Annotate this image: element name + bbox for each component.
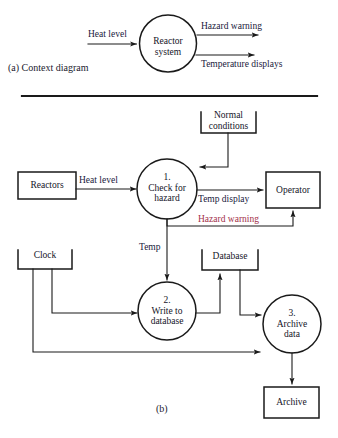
arrow-normal-conditions: [200, 133, 228, 167]
check-for-hazard-number: 1.: [137, 172, 197, 183]
check-for-hazard-label: 1. Check for hazard: [137, 172, 197, 204]
label-hazard-warning-context: Hazard warning: [201, 21, 262, 32]
archive-data-line2: data: [262, 329, 322, 340]
label-heat-level-context: Heat level: [88, 29, 127, 40]
normal-conditions-label: Normal conditions: [201, 110, 256, 131]
label-heat-level: Heat level: [79, 175, 118, 186]
database-label: Database: [202, 251, 258, 262]
reactor-system-line2: system: [140, 47, 196, 58]
label-temperature-displays-context: Temperature displays: [201, 59, 282, 70]
check-for-hazard-line2: hazard: [137, 193, 197, 204]
reactors-label: Reactors: [18, 180, 76, 191]
label-temp-display: Temp display: [198, 194, 249, 205]
write-to-database-line1: Write to: [137, 306, 197, 317]
archive-data-line1: Archive: [262, 319, 322, 330]
normal-conditions-line1: Normal: [201, 110, 256, 121]
arrow-clock-to-write: [52, 269, 137, 313]
clock-label: Clock: [18, 250, 72, 261]
reactor-system-line1: Reactor: [140, 36, 196, 47]
label-hazard-warning: Hazard warning: [198, 214, 259, 225]
archive-entity-label: Archive: [264, 397, 319, 408]
write-to-database-line2: database: [137, 316, 197, 327]
caption-part-a: (a) Context diagram: [8, 62, 89, 73]
operator-label: Operator: [266, 185, 320, 196]
archive-data-label: 3. Archive data: [262, 308, 322, 340]
arrow-write-to-database-store: [196, 274, 220, 313]
figure-root: Reactor system Heat level Hazard warning…: [0, 0, 338, 438]
normal-conditions-line2: conditions: [201, 121, 256, 132]
label-temp: Temp: [139, 242, 161, 253]
arrow-database-to-archive: [240, 270, 261, 315]
reactor-system-label: Reactor system: [140, 36, 196, 57]
write-to-database-number: 2.: [137, 295, 197, 306]
archive-data-number: 3.: [262, 308, 322, 319]
check-for-hazard-line1: Check for: [137, 183, 197, 194]
caption-part-b: (b): [156, 403, 168, 414]
write-to-database-label: 2. Write to database: [137, 295, 197, 327]
